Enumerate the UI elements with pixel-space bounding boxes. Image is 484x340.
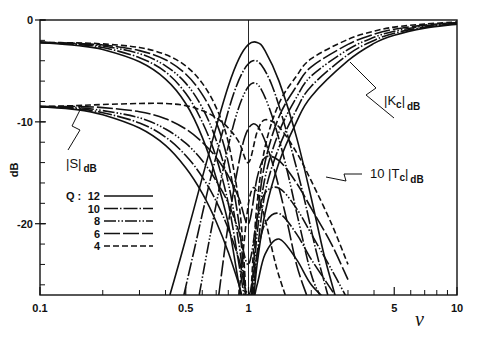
x-tick-label: 1 xyxy=(245,302,251,314)
annotation-kc: |Kc|dB xyxy=(350,62,420,118)
x-axis-label: v xyxy=(415,308,424,330)
x-tick-label: 0.1 xyxy=(32,302,47,314)
y-axis-ticks: 0-10-20 xyxy=(17,14,46,285)
svg-text:|Kc|dB: |Kc|dB xyxy=(384,93,420,112)
chart: 0-10-20 0.10.51510 dB v |Kc|dB |S|dB 10 … xyxy=(0,0,484,340)
annotation-s-arrow xyxy=(68,106,82,150)
legend: Q : 1210864 xyxy=(66,190,153,252)
svg-text:|S|dB: |S|dB xyxy=(66,156,97,174)
x-axis-ticks: 0.10.51510 xyxy=(32,287,463,314)
legend-label-q12: 12 xyxy=(88,190,100,202)
x-tick-label: 5 xyxy=(391,302,397,314)
y-tick-label: -10 xyxy=(17,116,33,128)
annotation-s: |S|dB xyxy=(66,106,97,174)
legend-label-q8: 8 xyxy=(94,215,100,227)
x-tick-label: 0.5 xyxy=(178,302,193,314)
y-tick-label: 0 xyxy=(27,14,33,26)
legend-label-q10: 10 xyxy=(88,203,100,215)
annotation-kc-text: |K xyxy=(384,93,396,108)
annotation-tc-text: 10 |T xyxy=(370,166,399,181)
x-tick-label: 10 xyxy=(451,302,463,314)
annotation-s-text: |S| xyxy=(66,156,81,171)
curve-s-q12 xyxy=(40,107,348,326)
curve-tc-q4 xyxy=(239,187,285,295)
annotation-kc-arrow xyxy=(350,62,394,118)
annotation-tc-arrow xyxy=(326,174,362,181)
curve-s-q4 xyxy=(40,103,348,264)
y-axis-label: dB xyxy=(8,163,20,178)
y-tick-label: -20 xyxy=(17,218,33,230)
legend-label-q4: 4 xyxy=(94,240,101,252)
svg-text:10 |Tc|dB: 10 |Tc|dB xyxy=(370,166,424,185)
legend-label-q6: 6 xyxy=(94,228,100,240)
annotation-tc: 10 |Tc|dB xyxy=(326,166,424,185)
legend-title: Q : xyxy=(66,190,81,202)
